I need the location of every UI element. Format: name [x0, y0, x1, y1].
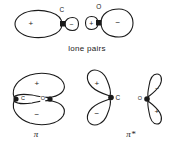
pi-carbon-atom-label: C	[20, 96, 25, 102]
molecular-orbital-figure: C + − O − + lone pairs + − C O π + − C −…	[0, 0, 175, 159]
pi-oxygen-atom-label: O	[40, 96, 45, 102]
lone-pair-oxygen-positive-sign: +	[89, 20, 93, 27]
lone-pair-oxygen-negative-sign: −	[116, 19, 121, 27]
lone-pair-carbon-positive-sign: +	[29, 20, 34, 28]
pi-star-oxygen-negative-sign: −	[155, 85, 159, 92]
pi-negative-sign: −	[35, 111, 40, 119]
lone-pair-carbon-atom-label: C	[60, 7, 65, 14]
pi-orbital-symbol: π	[34, 130, 39, 139]
pi-star-orbital-symbol: π*	[126, 130, 135, 139]
pi-star-carbon-atom-label: C	[116, 95, 121, 102]
pi-star-oxygen-atom-label: O	[137, 96, 142, 102]
lone-pair-oxygen-atom-label: O	[96, 4, 101, 11]
pi-star-oxygen-positive-sign: +	[155, 108, 160, 116]
lone-pair-carbon-negative-sign: −	[69, 21, 73, 28]
label-layer: C + − O − + lone pairs + − C O π + − C −…	[0, 0, 175, 159]
pi-star-carbon-negative-sign: −	[95, 110, 100, 118]
lone-pairs-caption: lone pairs	[68, 45, 106, 53]
pi-star-carbon-positive-sign: +	[95, 80, 100, 88]
pi-positive-sign: +	[35, 80, 40, 88]
